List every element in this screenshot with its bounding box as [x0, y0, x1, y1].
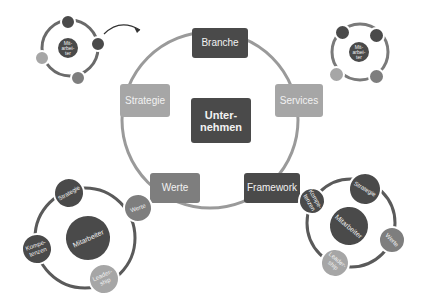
mini-center-mitarbeiter: Mit- arbei- ter [56, 36, 80, 60]
node-strategie: Strategie [120, 84, 170, 117]
mini-node [60, 14, 76, 30]
node-services: Services [275, 84, 323, 117]
node-werte: Werte [150, 173, 200, 203]
arrow-icon [104, 25, 140, 34]
mini-node [328, 66, 345, 83]
mini-node [368, 27, 385, 44]
mini-node [334, 24, 351, 41]
mini-node [90, 36, 106, 52]
mini-node [368, 68, 385, 85]
node-branche: Branche [192, 28, 248, 58]
mini-center-mitarbeiter: Mit- arbei- ter [347, 40, 371, 64]
mini-node [34, 50, 50, 66]
mini-node [70, 70, 86, 86]
center-unternehmen: Unter- nehmen [191, 98, 251, 143]
node-framework: Framework [244, 173, 300, 203]
